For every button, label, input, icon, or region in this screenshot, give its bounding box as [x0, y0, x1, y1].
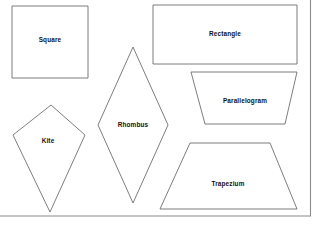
square-shape	[12, 6, 88, 78]
trapezium-shape	[160, 143, 297, 209]
shapes-vector-layer	[0, 0, 319, 226]
shapes-diagram-canvas: Square Rectangle Parallelogram Rhombus K…	[0, 0, 319, 226]
rhombus-shape	[98, 47, 168, 203]
rectangle-shape	[153, 5, 297, 64]
parallelogram-shape	[191, 72, 297, 124]
kite-shape	[13, 105, 85, 212]
